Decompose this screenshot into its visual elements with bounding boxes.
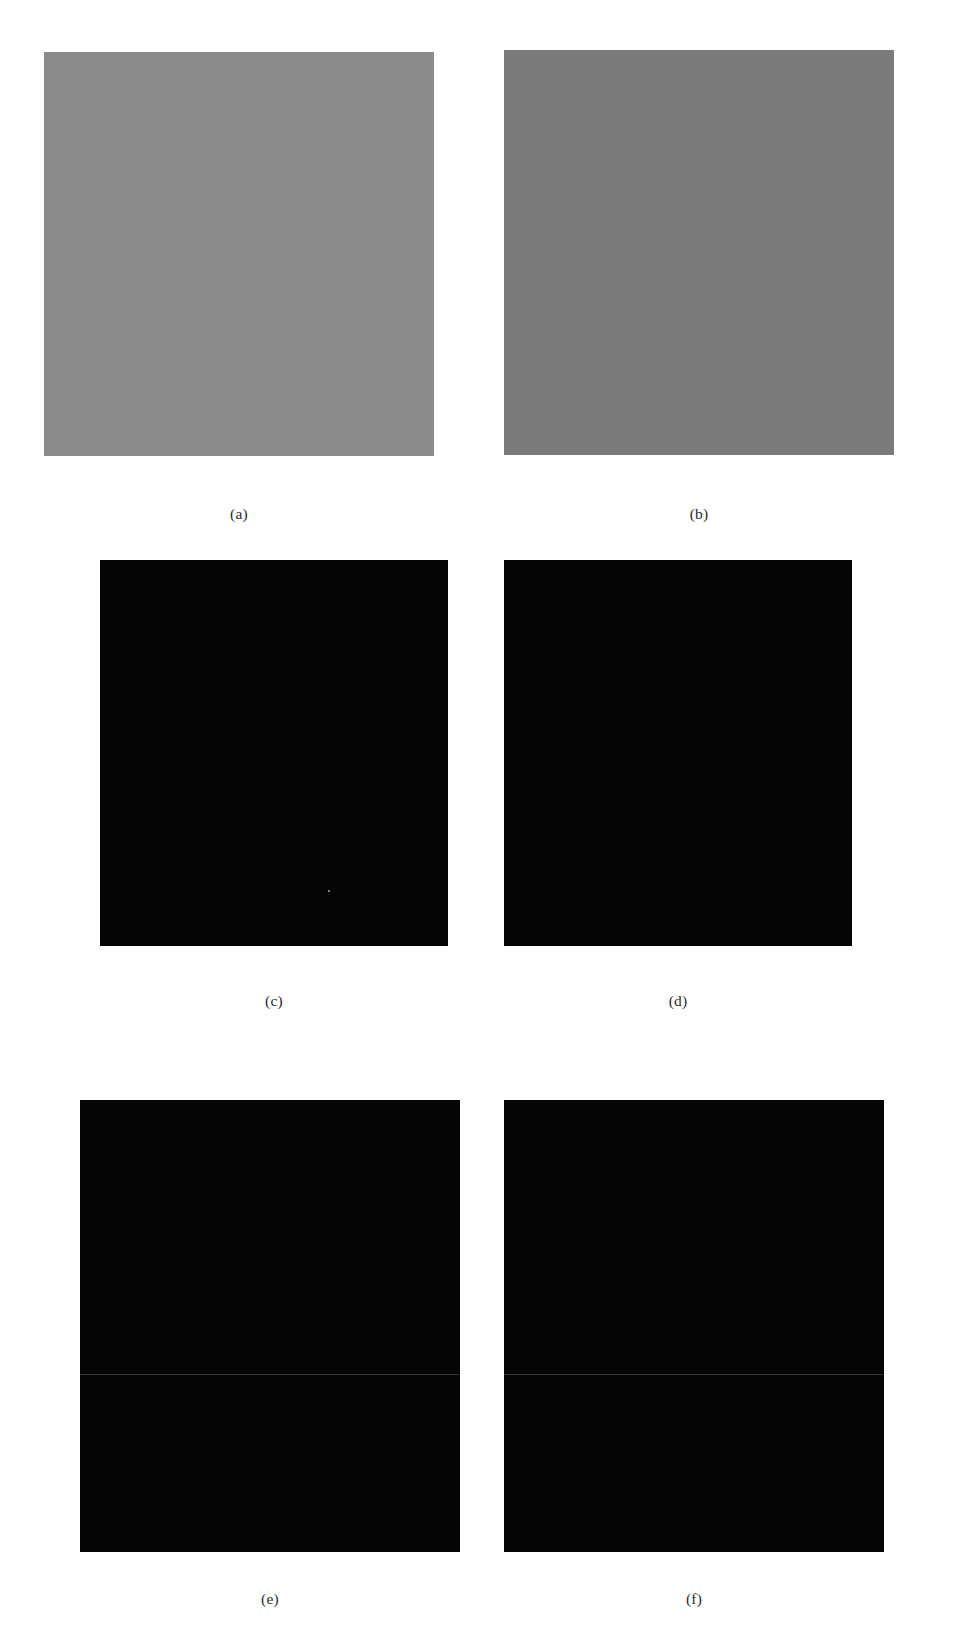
panel-c-speck bbox=[328, 890, 330, 892]
panel-a-image bbox=[44, 52, 434, 456]
panel-c-caption-text: (c) bbox=[265, 992, 283, 1009]
panel-d-caption: (d) bbox=[504, 992, 852, 1010]
panel-a-caption: (a) bbox=[44, 505, 434, 523]
panel-f-scanline bbox=[504, 1374, 884, 1375]
panel-c bbox=[100, 560, 448, 946]
panel-f-caption: (f) bbox=[504, 1590, 884, 1608]
panel-d-background bbox=[504, 560, 852, 946]
panel-d-caption-text: (d) bbox=[669, 992, 688, 1009]
panel-f-background bbox=[504, 1100, 884, 1552]
panel-c-background bbox=[100, 560, 448, 946]
panel-e-caption: (e) bbox=[80, 1590, 460, 1608]
panel-e-image bbox=[80, 1100, 460, 1552]
panel-f bbox=[504, 1100, 884, 1552]
panel-b-image bbox=[504, 50, 894, 455]
panel-f-caption-text: (f) bbox=[686, 1590, 702, 1607]
panel-c-image bbox=[100, 560, 448, 946]
panel-a bbox=[44, 52, 434, 456]
panel-c-caption: (c) bbox=[100, 992, 448, 1010]
panel-e-scanline bbox=[80, 1374, 460, 1375]
panel-b-caption-text: (b) bbox=[690, 505, 709, 522]
panel-b-background bbox=[504, 50, 894, 455]
panel-e-caption-text: (e) bbox=[261, 1590, 279, 1607]
panel-e bbox=[80, 1100, 460, 1552]
panel-a-caption-text: (a) bbox=[230, 505, 248, 522]
panel-a-background bbox=[44, 52, 434, 456]
panel-b bbox=[504, 50, 894, 455]
panel-b-caption: (b) bbox=[504, 505, 894, 523]
panel-d-image bbox=[504, 560, 852, 946]
panel-f-image bbox=[504, 1100, 884, 1552]
panel-e-background bbox=[80, 1100, 460, 1552]
figure-sheet: (a) bbox=[0, 0, 955, 1651]
panel-d bbox=[504, 560, 852, 946]
